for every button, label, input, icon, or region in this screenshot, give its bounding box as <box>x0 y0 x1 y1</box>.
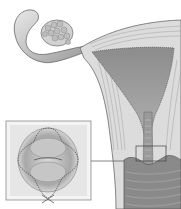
cervix-inset <box>6 121 91 203</box>
anatomy-diagram <box>0 0 181 209</box>
ovary <box>41 20 73 46</box>
vagina <box>124 155 181 209</box>
